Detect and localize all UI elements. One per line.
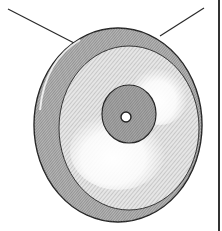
gong-boss [102, 85, 156, 143]
gong-illustration: Hand-drawn hatched illustration of a han… [0, 0, 222, 231]
frame-border [218, 0, 220, 231]
